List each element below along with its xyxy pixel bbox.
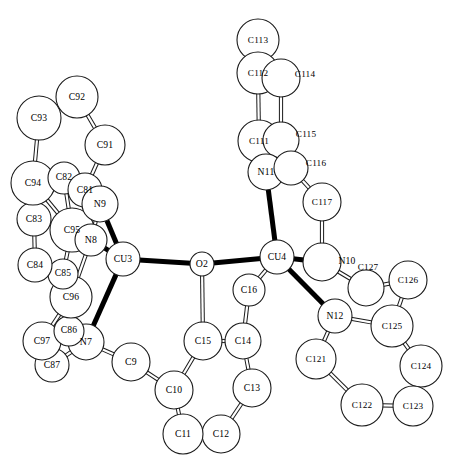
atom-label-c123: C123	[403, 401, 424, 411]
atom-c116	[274, 151, 308, 185]
bond-n10-cu4	[293, 259, 304, 260]
atom-label-c116: C116	[306, 158, 327, 168]
atom-label-c87: C87	[44, 359, 61, 370]
atom-label-n9: N9	[94, 198, 106, 209]
atom-n10	[303, 243, 341, 281]
atom-label-c81: C81	[77, 184, 94, 195]
bond-c116-c117	[302, 180, 310, 189]
bond-c13-c12	[231, 403, 242, 419]
atom-label-c124: C124	[411, 361, 432, 371]
atom-label-c84: C84	[27, 259, 44, 270]
bond-c81-c91	[91, 162, 97, 175]
atom-label-c16: C16	[241, 284, 258, 295]
atom-label-n10: N10	[338, 255, 355, 266]
bond-cu4-c16	[259, 269, 267, 278]
bond-c96-n8	[78, 254, 86, 278]
atom-label-c15: C15	[195, 335, 212, 346]
bond-c91-c92	[87, 114, 95, 128]
atom-label-c125: C125	[382, 321, 403, 331]
atom-label-c115: C115	[296, 129, 317, 139]
atom-label-c12: C12	[213, 428, 230, 439]
bond-c10-c15	[183, 356, 194, 374]
bond-n11-cu4	[268, 189, 275, 241]
structure-canvas: C113C112C114C111C115N11C116C117N10C127C1…	[0, 0, 471, 464]
ortep-structure-figure: C113C112C114C111C115N11C116C117N10C127C1…	[0, 0, 471, 464]
atom-label-n8: N8	[85, 234, 97, 245]
atom-label-c85: C85	[55, 267, 72, 278]
bond-n7-cu3	[93, 274, 117, 327]
bond-n9-cu3	[107, 220, 117, 245]
bond-c16-c14	[245, 305, 247, 324]
atom-label-c114: C114	[295, 69, 316, 79]
atom-label-n7: N7	[80, 336, 92, 347]
bond-c93-c94	[35, 139, 37, 162]
atom-label-o2: O2	[196, 258, 208, 269]
atom-label-c111: C111	[249, 136, 269, 146]
atom-label-c11: C11	[175, 428, 191, 439]
atom-label-c94: C94	[25, 177, 42, 188]
atom-label-c121: C121	[306, 354, 327, 364]
bond-n10-c127	[337, 271, 351, 279]
atom-label-c113: C113	[248, 35, 269, 45]
bond-cu3-o2	[139, 260, 191, 263]
atom-label-c83: C83	[26, 213, 43, 224]
atom-label-c97: C97	[34, 335, 51, 346]
atom-label-c95: C95	[64, 224, 81, 235]
atom-label-c13: C13	[244, 382, 261, 393]
bond-c121-n12	[324, 331, 329, 342]
atom-layer	[11, 19, 442, 454]
atom-label-cu3: CU3	[114, 253, 133, 264]
atom-label-c9: C9	[125, 356, 137, 367]
atom-label-c122: C122	[352, 400, 373, 410]
atom-label-n11: N11	[258, 166, 275, 177]
atom-label-c14: C14	[235, 335, 252, 346]
atom-label-cu4: CU4	[268, 251, 287, 262]
atom-label-c10: C10	[166, 384, 183, 395]
bond-c126-c125	[399, 297, 403, 307]
bond-c122-c121	[329, 372, 347, 390]
atom-label-c93: C93	[31, 112, 48, 123]
atom-label-c127: C127	[358, 262, 379, 272]
bond-c9-n7	[102, 349, 115, 355]
bond-cu4-o2	[213, 258, 261, 262]
atom-label-c82: C82	[56, 171, 73, 182]
atom-c127	[348, 270, 384, 306]
bond-c10-c9	[146, 372, 159, 380]
atom-label-c91: C91	[97, 139, 114, 150]
atom-label-c126: C126	[398, 275, 419, 285]
atom-label-c117: C117	[312, 197, 333, 207]
atom-label-c112: C112	[248, 68, 269, 78]
atom-label-c96: C96	[63, 291, 80, 302]
bond-c125-n12	[351, 319, 373, 323]
bond-c14-c13	[246, 358, 248, 371]
atom-label-n12: N12	[326, 310, 343, 321]
atom-label-c92: C92	[69, 91, 86, 102]
bond-o2-c15	[202, 275, 203, 323]
atom-label-c86: C86	[61, 324, 78, 335]
